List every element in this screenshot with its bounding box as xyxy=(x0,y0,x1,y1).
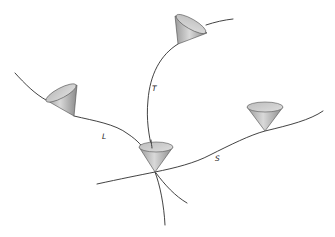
cone-right-rim xyxy=(247,102,283,112)
curve-L xyxy=(15,73,150,158)
label-T: T xyxy=(152,84,158,93)
label-L: L xyxy=(102,132,106,141)
light-cone-diagram: T L S xyxy=(0,0,335,237)
curve-S xyxy=(97,111,323,184)
cone-center-rim xyxy=(139,142,173,152)
cone-top xyxy=(174,11,208,44)
cone-left xyxy=(44,81,79,116)
cone-right xyxy=(247,102,283,131)
curves-below-crossing xyxy=(155,172,187,225)
cone-center xyxy=(139,140,173,172)
label-S: S xyxy=(215,154,220,163)
